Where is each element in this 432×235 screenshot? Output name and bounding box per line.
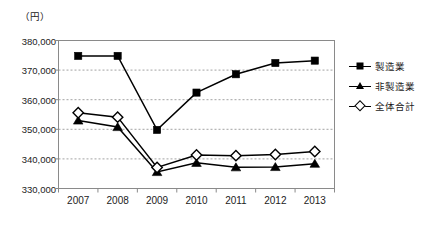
legend-triangle-icon bbox=[356, 82, 364, 89]
legend-item: 非製造業 bbox=[349, 76, 432, 96]
x-axis-tick-label: 2010 bbox=[185, 195, 207, 206]
legend-item-label: 非製造業 bbox=[375, 79, 415, 93]
legend-item-label: 全体合計 bbox=[375, 99, 415, 113]
data-point-marker bbox=[272, 59, 279, 66]
legend-item: 全体合計 bbox=[349, 96, 432, 116]
legend-item-label: 製造業 bbox=[375, 59, 405, 73]
x-axis-tick-label: 2011 bbox=[225, 195, 247, 206]
legend-square-icon bbox=[357, 63, 364, 70]
data-point-marker bbox=[193, 89, 200, 96]
legend-marker bbox=[349, 80, 371, 92]
data-point-marker bbox=[114, 52, 121, 59]
legend-item: 製造業 bbox=[349, 56, 432, 76]
legend-marker bbox=[349, 100, 371, 112]
chart-legend: 製造業非製造業全体合計 bbox=[349, 56, 432, 116]
x-axis-tick-label: 2013 bbox=[304, 195, 326, 206]
data-point-marker bbox=[73, 108, 83, 118]
data-point-marker bbox=[153, 126, 160, 133]
x-axis-tick-label: 2008 bbox=[107, 195, 129, 206]
data-point-marker bbox=[232, 71, 239, 78]
data-point-marker bbox=[310, 146, 320, 156]
x-axis-tick-label: 2012 bbox=[264, 195, 286, 206]
x-axis-tick-label: 2007 bbox=[67, 195, 89, 206]
legend-marker bbox=[349, 60, 371, 72]
data-point-marker bbox=[270, 149, 280, 159]
data-point-marker bbox=[75, 52, 82, 59]
x-axis-tick-label: 2009 bbox=[146, 195, 168, 206]
line-chart: （円） 330,000340,000350,000360,000370,0003… bbox=[0, 0, 432, 235]
plot-area bbox=[0, 0, 432, 235]
legend-diamond-icon bbox=[354, 100, 366, 112]
data-point-marker bbox=[311, 57, 318, 64]
